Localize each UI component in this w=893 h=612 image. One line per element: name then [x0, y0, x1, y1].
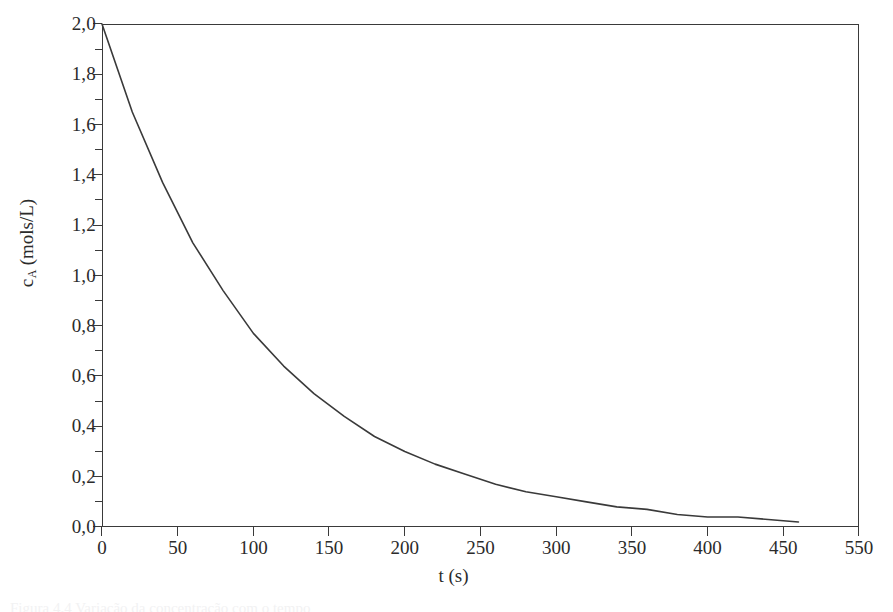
y-axis-tick-label: 0,6	[72, 366, 96, 385]
x-axis-tick	[631, 527, 632, 536]
x-axis-tick-label: 100	[239, 538, 268, 558]
x-axis-tick-label: 300	[542, 538, 571, 558]
y-axis-title-unit: (mols/L)	[16, 199, 37, 270]
x-axis-tick-label: 350	[618, 538, 647, 558]
figure-exponential-decay: 0,00,20,40,60,81,01,21,41,61,82,0 050100…	[0, 0, 893, 612]
y-axis-title-subscript: A	[25, 270, 39, 279]
y-axis-tick-label: 0,8	[72, 316, 96, 335]
y-axis-tick-minor	[95, 401, 102, 402]
y-axis-tick-label: 1,0	[72, 266, 96, 285]
y-axis-tick-label: 1,2	[72, 215, 96, 234]
decay-curve-line	[102, 24, 798, 522]
x-axis-tick	[177, 527, 178, 536]
y-axis-tick-minor	[95, 451, 102, 452]
y-axis-tick-minor	[95, 99, 102, 100]
y-axis-tick-minor	[95, 350, 102, 351]
x-axis-tick	[404, 527, 405, 536]
y-axis-tick-label: 0,2	[72, 467, 96, 486]
y-axis-tick-minor	[95, 300, 102, 301]
y-axis-tick-label: 1,6	[72, 115, 96, 134]
x-axis-tick	[858, 527, 859, 536]
y-axis-tick-minor	[95, 501, 102, 502]
x-axis-tick-label: 400	[693, 538, 722, 558]
y-axis-tick-minor	[95, 149, 102, 150]
x-axis-tick	[328, 527, 329, 536]
y-axis-tick-label: 0,0	[72, 517, 96, 536]
y-axis-tick-label: 2,0	[72, 14, 96, 33]
y-axis-tick-minor	[95, 250, 102, 251]
y-axis-tick-minor	[95, 199, 102, 200]
y-axis-tick-minor	[95, 49, 102, 50]
y-axis-title-symbol: c	[16, 279, 37, 287]
y-axis-tick-label: 1,8	[72, 64, 96, 83]
y-axis-tick-label: 0,4	[72, 416, 96, 435]
x-axis-tick-label: 250	[466, 538, 495, 558]
figure-caption: Figura 4.4 Variação da concentração com …	[10, 601, 710, 612]
x-axis-tick-label: 450	[769, 538, 798, 558]
plot-area	[102, 24, 859, 527]
y-axis-title: cA (mols/L)	[17, 153, 39, 333]
x-axis-tick	[707, 527, 708, 536]
x-axis-tick-label: 0	[97, 538, 107, 558]
x-axis-tick	[480, 527, 481, 536]
y-axis-tick-label: 1,4	[72, 165, 96, 184]
x-axis-tick-label: 550	[845, 538, 874, 558]
x-axis-tick	[253, 527, 254, 536]
x-axis-tick-label: 200	[391, 538, 420, 558]
x-axis-tick	[783, 527, 784, 536]
x-axis-tick	[101, 527, 102, 536]
x-axis-tick-label: 50	[168, 538, 187, 558]
x-axis-title: t (s)	[0, 566, 893, 586]
x-axis-tick	[556, 527, 557, 536]
x-axis-tick-label: 150	[315, 538, 344, 558]
